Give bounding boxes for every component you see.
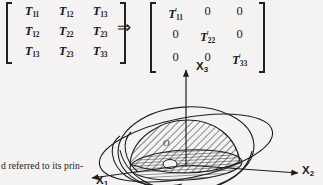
- matrix-cell: T13: [83, 4, 117, 22]
- axis-label-x2: X2: [302, 164, 314, 178]
- axis-label-x1: X1: [96, 174, 108, 185]
- matrix-cell: 0: [223, 4, 256, 25]
- matrix-cell: T12: [49, 4, 83, 22]
- matrix-cell: T12: [15, 24, 49, 42]
- origin-label: O: [163, 138, 170, 148]
- implies-arrow-symbol: ⇒: [117, 19, 131, 36]
- matrix-cell: T′11: [159, 4, 192, 25]
- matrix-cell: T23: [83, 24, 117, 42]
- matrix-cell: T22: [49, 24, 83, 42]
- matrix-cell: T′22: [192, 27, 223, 48]
- matrix-cell: 0: [159, 27, 192, 48]
- matrix-cell: T11: [15, 4, 49, 22]
- body-text-fragment: d referred to its prin-: [1, 160, 83, 171]
- axis-label-x3: X3: [196, 60, 208, 74]
- matrix-cell: 0: [223, 27, 256, 48]
- matrix-cell: 0: [192, 4, 223, 25]
- scanned-page: T11T12T13T12T22T23T13T23T33 ⇒ T′11000T′2…: [0, 0, 323, 185]
- tensor-equation: T11T12T13T12T22T23T13T23T33 ⇒ T′11000T′2…: [0, 0, 323, 56]
